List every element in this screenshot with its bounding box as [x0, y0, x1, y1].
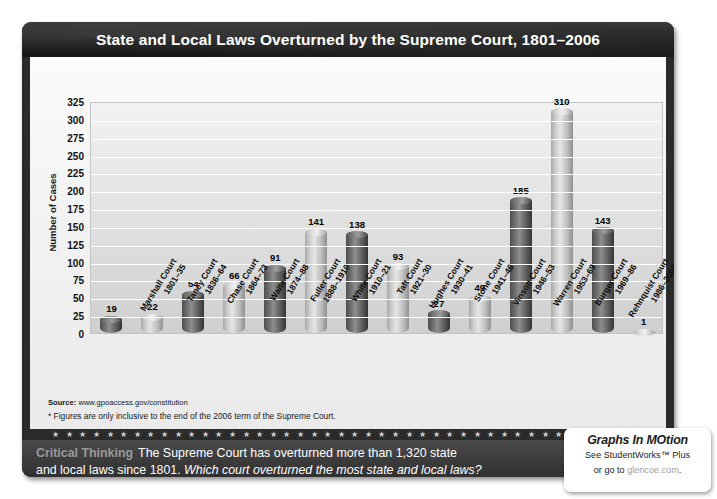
y-tick-label: 275	[48, 132, 84, 143]
y-tick-label: 75	[48, 275, 84, 286]
bar-value-label: 93	[378, 251, 418, 262]
y-tick-label: 175	[48, 204, 84, 215]
star-icon: ★	[542, 431, 549, 439]
y-tick-label: 125	[48, 239, 84, 250]
gridline	[91, 157, 662, 158]
gridline	[91, 174, 662, 175]
star-icon: ★	[311, 431, 318, 439]
chart-card: Number of Cases 325300275250225200175150…	[30, 57, 666, 429]
gridline	[91, 192, 662, 193]
y-tick-label: 325	[48, 97, 84, 108]
star-icon: ★	[338, 431, 345, 439]
star-icon: ★	[324, 431, 331, 439]
y-tick-label: 0	[48, 329, 84, 340]
star-icon: ★	[351, 431, 358, 439]
gridline	[91, 139, 662, 140]
gridline	[91, 210, 662, 211]
star-icon: ★	[120, 431, 127, 439]
star-icon: ★	[474, 431, 481, 439]
source-label: Source:	[48, 398, 76, 407]
chart-title-bar: State and Local Laws Overturned by the S…	[22, 22, 674, 57]
y-tick-label: 150	[48, 221, 84, 232]
y-tick-label: 50	[48, 293, 84, 304]
gridline	[91, 228, 662, 229]
star-icon: ★	[487, 431, 494, 439]
star-icon: ★	[52, 431, 59, 439]
star-icon: ★	[283, 431, 290, 439]
badge-title: Graphs In MOtion	[568, 433, 707, 447]
y-tick-label: 225	[48, 168, 84, 179]
star-icon: ★	[243, 431, 250, 439]
gridline	[91, 121, 662, 122]
y-tick-label: 250	[48, 150, 84, 161]
star-icon: ★	[406, 431, 413, 439]
star-icon: ★	[460, 431, 467, 439]
bar-value-label: 185	[501, 185, 541, 196]
star-icon: ★	[215, 431, 222, 439]
star-icon: ★	[229, 431, 236, 439]
star-icon: ★	[378, 431, 385, 439]
critical-thinking-text-1: The Supreme Court has overturned more th…	[138, 446, 457, 460]
star-icon: ★	[79, 431, 86, 439]
star-icon: ★	[433, 431, 440, 439]
star-icon: ★	[175, 431, 182, 439]
source-value: www.gpoaccess.gov/constitution	[78, 398, 187, 407]
badge-line-2-prefix: or go to	[594, 465, 627, 475]
badge-line-2-suffix: .	[679, 465, 682, 475]
gridline	[91, 246, 662, 247]
bar-top-cap	[305, 229, 327, 236]
bar-top-cap	[346, 231, 368, 238]
bar-value-label: 141	[296, 216, 336, 227]
star-icon: ★	[528, 431, 535, 439]
y-tick-label: 200	[48, 186, 84, 197]
star-icon: ★	[270, 431, 277, 439]
star-icon: ★	[501, 431, 508, 439]
star-icon: ★	[147, 431, 154, 439]
critical-thinking-heading: Critical Thinking	[36, 446, 133, 460]
y-axis-ticks: 3253002752502252001751501251007550250	[48, 102, 84, 334]
bar-value-label: 19	[91, 303, 131, 314]
critical-thinking-question: Which court overturned the most state an…	[184, 463, 482, 477]
bar-value-label: 143	[583, 215, 623, 226]
y-tick-label: 300	[48, 114, 84, 125]
star-icon: ★	[66, 431, 73, 439]
star-icon: ★	[365, 431, 372, 439]
star-icon: ★	[161, 431, 168, 439]
star-icon: ★	[256, 431, 263, 439]
star-icon: ★	[514, 431, 521, 439]
footnote-asterisk: * Figures are only inclusive to the end …	[48, 410, 648, 423]
bar-value-label: 310	[542, 96, 582, 107]
source-line: Source: www.gpoaccess.gov/constitution	[48, 397, 648, 410]
critical-thinking-text-2: and local laws since 1801.	[36, 463, 181, 477]
badge-line-2: or go to glencoe.com.	[568, 464, 707, 477]
y-tick-label: 100	[48, 257, 84, 268]
star-icon: ★	[93, 431, 100, 439]
badge-line-1: See StudentWorks™ Plus	[568, 449, 707, 462]
chart-panel: State and Local Laws Overturned by the S…	[22, 22, 674, 477]
y-tick-label: 25	[48, 311, 84, 322]
star-icon: ★	[297, 431, 304, 439]
star-icon: ★	[202, 431, 209, 439]
star-icon: ★	[188, 431, 195, 439]
page-title: State and Local Laws Overturned by the S…	[96, 31, 600, 49]
badge-link[interactable]: glencoe.com	[627, 465, 679, 475]
page-root: State and Local Laws Overturned by the S…	[0, 0, 717, 499]
source-note: Source: www.gpoaccess.gov/constitution *…	[48, 397, 648, 422]
star-icon: ★	[555, 431, 562, 439]
star-icon: ★	[392, 431, 399, 439]
star-icon: ★	[107, 431, 114, 439]
star-icon: ★	[419, 431, 426, 439]
star-icon: ★	[446, 431, 453, 439]
star-icon: ★	[134, 431, 141, 439]
graphs-in-motion-badge[interactable]: Graphs In MOtion See StudentWorks™ Plus …	[564, 428, 711, 492]
